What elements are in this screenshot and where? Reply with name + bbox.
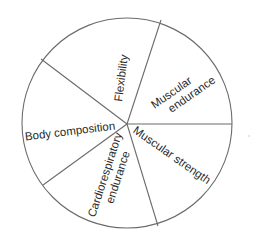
fitness-components-pie: Flexibility Muscular endurance Muscular … xyxy=(0,0,258,244)
segment-label-cardiorespiratory-endurance: Cardiorespiratory endurance xyxy=(85,128,137,223)
segment-label-flexibility: Flexibility xyxy=(112,54,130,103)
stray-dot xyxy=(248,135,249,136)
segment-label-body-composition: Body composition xyxy=(24,120,116,143)
segment-label-muscular-endurance: Muscular endurance xyxy=(149,63,217,121)
